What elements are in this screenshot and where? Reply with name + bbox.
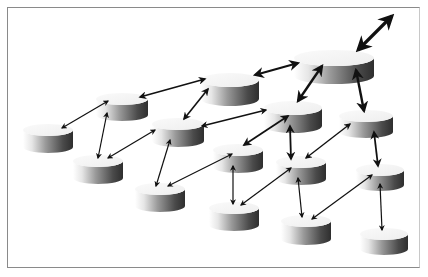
bidirectional-arrow-3 bbox=[140, 79, 205, 97]
bidirectional-arrow-13 bbox=[290, 126, 291, 159]
nodes-layer bbox=[23, 50, 408, 255]
bidirectional-arrow-5 bbox=[255, 63, 298, 75]
bidirectional-arrow-18 bbox=[241, 168, 291, 205]
cylinder-node-n3 bbox=[73, 155, 123, 184]
cylinder-node-n8 bbox=[213, 144, 263, 173]
cylinder-node-n1 bbox=[23, 124, 73, 153]
network-diagram bbox=[0, 0, 428, 277]
bidirectional-arrow-9 bbox=[202, 110, 266, 126]
cylinder-node-n15 bbox=[360, 228, 408, 255]
bidirectional-arrow-2 bbox=[98, 113, 107, 158]
bidirectional-arrow-8 bbox=[156, 140, 170, 186]
cylinder-node-n11 bbox=[209, 202, 259, 231]
cylinder-node-n4 bbox=[152, 118, 204, 147]
bidirectional-arrow-6 bbox=[358, 16, 392, 50]
cylinder-node-n5 bbox=[201, 73, 259, 106]
cylinder-node-n10 bbox=[339, 110, 393, 138]
cylinder-node-n6 bbox=[294, 50, 374, 84]
cylinder-node-n7 bbox=[135, 183, 185, 212]
bidirectional-arrow-7 bbox=[108, 130, 155, 158]
cylinder-node-n14 bbox=[281, 215, 331, 245]
bidirectional-arrow-4 bbox=[184, 89, 208, 119]
cylinder-node-n9 bbox=[264, 101, 322, 133]
cylinder-node-n12 bbox=[276, 156, 326, 185]
